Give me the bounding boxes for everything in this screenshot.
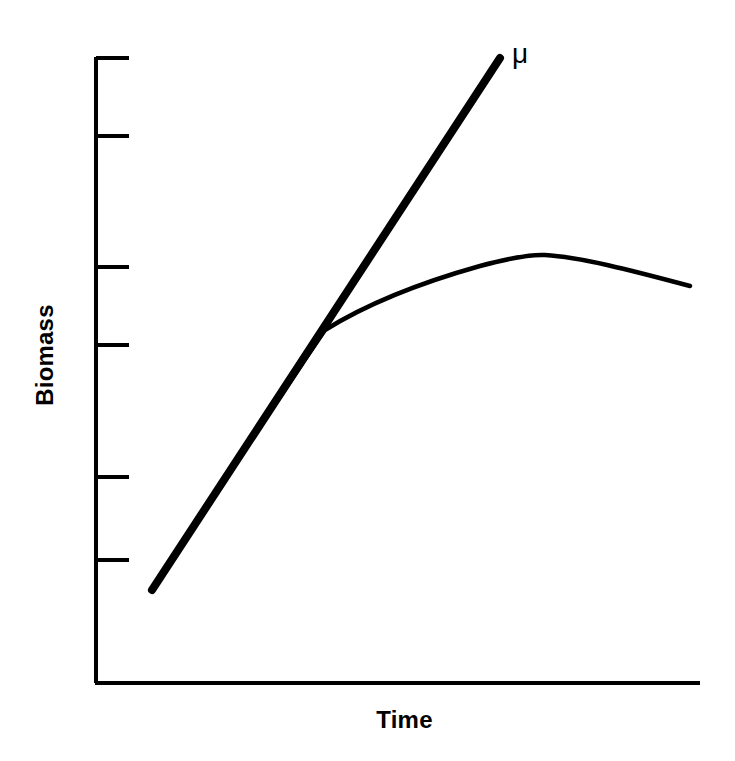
chart-figure <box>0 0 735 761</box>
y-axis-label: Biomass <box>31 304 59 405</box>
mu-symbol-label: μ <box>512 38 528 70</box>
x-axis-label: Time <box>37 706 735 734</box>
chart-background <box>0 0 735 761</box>
